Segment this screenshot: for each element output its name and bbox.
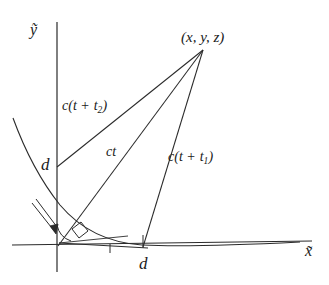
figure-canvas [0,0,329,285]
distance-label-x-axis: d [139,255,148,272]
ray-upper-prefix: c(t + [62,98,90,113]
x-axis-label: x̃ [305,243,312,259]
tangent-line-extension [59,236,128,243]
y-axis-label: ỹ [30,22,37,38]
ray-upper-suffix: ) [102,98,107,113]
ray-lower-prefix: c(t + [168,149,196,164]
geometry-figure: ỹ x̃ (x, y, z) d d c(t +t2) ct c(t +t1) [0,0,329,285]
source-point-label: (x, y, z) [181,30,224,45]
ray-middle-ct [58,50,203,246]
ray-lower-suffix: ) [208,149,213,164]
ray-upper-label: c(t +t2) [62,99,107,116]
ray-middle-label: ct [106,145,116,159]
incidence-arrow [32,199,58,234]
distance-label-y-axis: d [41,156,50,173]
ray-lower-label: c(t +t1) [168,150,213,167]
